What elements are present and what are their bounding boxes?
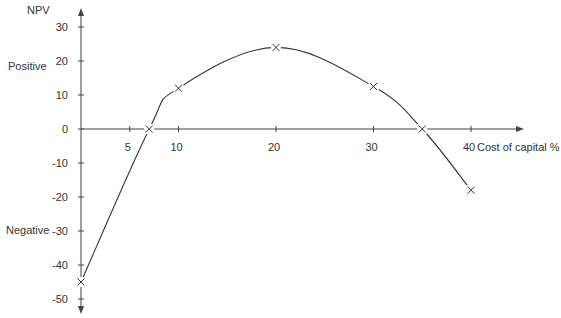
- x-tick-label: 5: [125, 141, 131, 153]
- y-tick-label: -40: [52, 259, 68, 271]
- y-tick-label: -50: [52, 293, 68, 305]
- y-tick-label: 30: [56, 21, 68, 33]
- x-tick-label: 10: [170, 141, 182, 153]
- y-tick-label: -10: [52, 157, 68, 169]
- arrow-up-icon: [78, 8, 84, 16]
- y-tick-label: 20: [56, 55, 68, 67]
- y-tick-label: 10: [56, 89, 68, 101]
- x-axis-title: Cost of capital %: [477, 141, 560, 153]
- npv-chart: 3020100-10-20-30-40-50510203040NPVPositi…: [0, 0, 561, 318]
- arrow-down-icon: [78, 306, 84, 314]
- npv-curve: [81, 47, 471, 282]
- y-axis: [78, 8, 84, 314]
- axis-labels: 3020100-10-20-30-40-50510203040NPVPositi…: [6, 4, 560, 305]
- arrow-right-icon: [516, 126, 524, 132]
- y-tick-label: 0: [62, 123, 68, 135]
- positive-label: Positive: [8, 60, 47, 72]
- y-tick-label: -20: [52, 191, 68, 203]
- x-tick-label: 20: [268, 141, 280, 153]
- y-axis-title: NPV: [27, 4, 50, 16]
- data-point-markers: [76, 42, 476, 287]
- negative-label: Negative: [6, 224, 49, 236]
- x-tick-label: 30: [365, 141, 377, 153]
- x-tick-label: 40: [463, 141, 475, 153]
- y-tick-label: -30: [52, 225, 68, 237]
